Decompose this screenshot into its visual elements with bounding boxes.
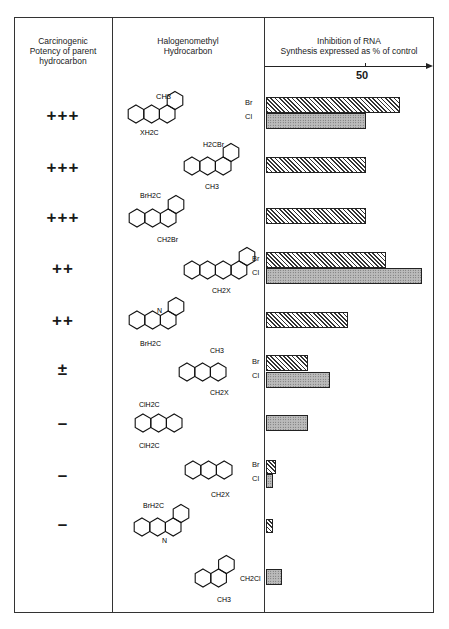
halogen-label: BrCl bbox=[252, 252, 260, 280]
bar-cl bbox=[266, 415, 308, 431]
svg-text:CH3: CH3 bbox=[217, 596, 231, 603]
svg-text:N: N bbox=[157, 307, 162, 314]
svg-text:BrH2C: BrH2C bbox=[140, 340, 161, 347]
svg-text:ClH2C: ClH2C bbox=[139, 401, 160, 408]
svg-text:CH2Cl: CH2Cl bbox=[240, 575, 261, 582]
bar-cl bbox=[266, 569, 282, 585]
svg-text:BrH2C: BrH2C bbox=[140, 192, 161, 199]
svg-text:BrH2C: BrH2C bbox=[143, 502, 164, 509]
svg-text:CH3: CH3 bbox=[210, 347, 224, 354]
bar-br bbox=[266, 519, 273, 533]
structure-drawings: CH3XH2C H2CBrCH3 BrH2CCH2Br CH2X NBrH2C … bbox=[0, 0, 449, 629]
svg-text:CH2X: CH2X bbox=[211, 491, 230, 498]
svg-text:ClH2C: ClH2C bbox=[139, 442, 160, 449]
svg-text:CH2X: CH2X bbox=[212, 287, 231, 294]
svg-text:XH2C: XH2C bbox=[140, 129, 159, 136]
bar-br bbox=[266, 252, 386, 268]
bar-br bbox=[266, 355, 308, 371]
bar-br bbox=[266, 97, 400, 113]
svg-text:CH2Br: CH2Br bbox=[157, 236, 179, 243]
svg-text:N: N bbox=[162, 537, 167, 544]
svg-text:CH3: CH3 bbox=[156, 92, 171, 101]
halogen-label: BrCl bbox=[252, 458, 260, 486]
bar-br bbox=[266, 157, 366, 173]
svg-text:H2CBr: H2CBr bbox=[203, 141, 225, 148]
svg-text:CH3: CH3 bbox=[205, 183, 219, 190]
bar-cl bbox=[266, 474, 273, 488]
bar-cl bbox=[266, 268, 422, 284]
bar-cl bbox=[266, 372, 330, 388]
bar-br bbox=[266, 460, 276, 474]
bar-br bbox=[266, 312, 348, 328]
bar-cl bbox=[266, 113, 366, 129]
svg-text:CH2X: CH2X bbox=[210, 389, 229, 396]
halogen-label: BrCl bbox=[245, 96, 253, 124]
halogen-label: BrCl bbox=[252, 355, 260, 383]
bar-br bbox=[266, 208, 366, 224]
